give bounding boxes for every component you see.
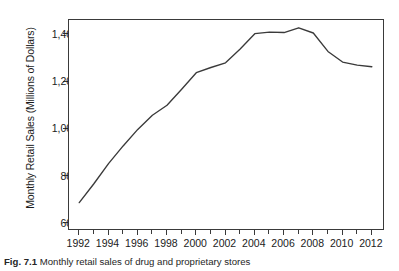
figure-container: Monthly Retail Sales (Millions of Dollar… bbox=[0, 0, 399, 271]
plot-area bbox=[68, 19, 384, 230]
figure-caption-label: Fig. 7.1 bbox=[4, 256, 37, 267]
figure-caption: Fig. 7.1 Monthly retail sales of drug an… bbox=[4, 256, 396, 268]
series-line-monthly-retail-sales bbox=[69, 20, 385, 231]
figure-caption-text: Monthly retail sales of drug and proprie… bbox=[40, 256, 251, 267]
x-axis-tick-label: 2012 bbox=[348, 238, 394, 249]
